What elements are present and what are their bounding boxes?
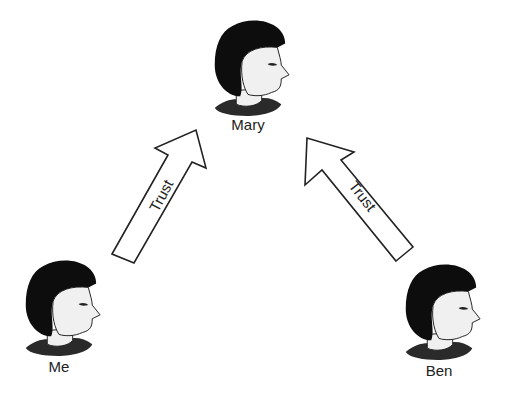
person-ben: Ben (394, 262, 484, 382)
trust-arrow-ben-to-mary: Trust (305, 138, 413, 261)
trust-arrow-me-to-mary: Trust (112, 130, 206, 263)
person-me: Me (14, 258, 104, 378)
person-head-icon (14, 258, 104, 358)
person-head-icon (394, 262, 484, 362)
person-mary: Mary (203, 18, 293, 136)
diagram-canvas: Trust Trust Mary Me Ben (0, 0, 510, 396)
person-head-icon (203, 18, 293, 118)
person-label-mary: Mary (203, 116, 293, 133)
person-label-me: Me (14, 358, 104, 375)
person-label-ben: Ben (394, 362, 484, 379)
